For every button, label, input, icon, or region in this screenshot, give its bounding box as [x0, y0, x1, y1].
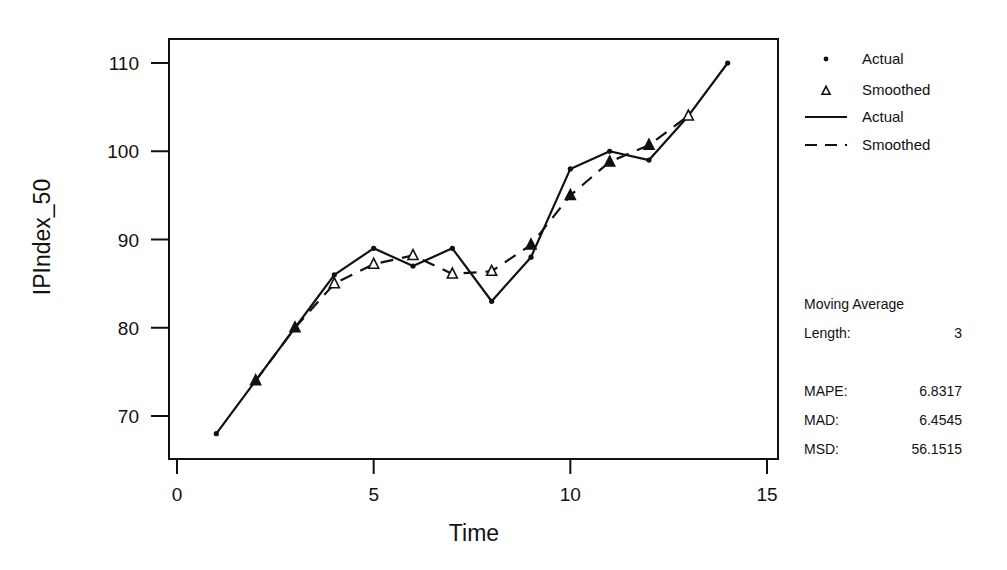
msd-value: 56.1515 — [911, 435, 962, 464]
y-tick-label: 100 — [107, 141, 139, 162]
actual-point — [646, 157, 651, 162]
legend-label: Smoothed — [862, 136, 930, 153]
actual-point — [410, 263, 415, 268]
actual-point — [214, 431, 219, 436]
actual-point — [568, 166, 573, 171]
series-layer — [214, 60, 731, 436]
mad-label: MAD: — [804, 406, 839, 435]
method-row: Moving Average — [804, 290, 962, 319]
smoothed-point — [605, 156, 615, 166]
y-tick-label: 70 — [118, 406, 139, 427]
method-label: Moving Average — [804, 290, 904, 319]
msd-label: MSD: — [804, 435, 839, 464]
plot-border — [169, 39, 778, 459]
y-tick-label: 80 — [118, 318, 139, 339]
legend-triangle-icon — [822, 86, 830, 94]
length-label: Length: — [804, 319, 851, 348]
plot-frame — [169, 39, 778, 459]
actual-point — [371, 246, 376, 251]
legend-label: Actual — [862, 50, 904, 67]
smoothed-point — [369, 258, 379, 268]
mape-row: MAPE: 6.8317 — [804, 377, 962, 406]
legend-dot-icon — [824, 57, 829, 62]
legend-label: Smoothed — [862, 81, 930, 98]
model-stats-panel: Moving Average Length: 3 MAPE: 6.8317 MA… — [804, 290, 962, 464]
actual-point — [725, 60, 730, 65]
mape-value: 6.8317 — [919, 377, 962, 406]
smoothed-point — [487, 265, 497, 275]
smoothed-line — [256, 116, 689, 381]
actual-point — [489, 299, 494, 304]
mape-label: MAPE: — [804, 377, 848, 406]
axes: 708090100110051015 — [107, 53, 777, 505]
smoothed-point — [526, 239, 536, 249]
chart-canvas: 708090100110051015 ActualSmoothedActualS… — [0, 0, 1007, 570]
smoothed-point — [644, 139, 654, 149]
x-tick-label: 10 — [560, 484, 581, 505]
msd-row: MSD: 56.1515 — [804, 435, 962, 464]
x-axis-title: Time — [449, 520, 499, 546]
stats-spacer — [804, 348, 962, 377]
actual-line — [216, 63, 727, 434]
actual-point — [528, 255, 533, 260]
mad-row: MAD: 6.4545 — [804, 406, 962, 435]
actual-point — [607, 149, 612, 154]
smoothed-point — [408, 250, 418, 260]
mad-value: 6.4545 — [919, 406, 962, 435]
y-axis-title: IPIndex_50 — [29, 179, 55, 295]
x-tick-label: 0 — [172, 484, 183, 505]
x-tick-label: 5 — [368, 484, 379, 505]
legend: ActualSmoothedActualSmoothed — [805, 50, 930, 153]
y-tick-label: 110 — [109, 53, 139, 74]
length-row: Length: 3 — [804, 319, 962, 348]
length-value: 3 — [954, 319, 962, 348]
actual-point — [450, 246, 455, 251]
x-tick-label: 15 — [756, 484, 777, 505]
y-tick-label: 90 — [118, 230, 139, 251]
legend-label: Actual — [862, 108, 904, 125]
